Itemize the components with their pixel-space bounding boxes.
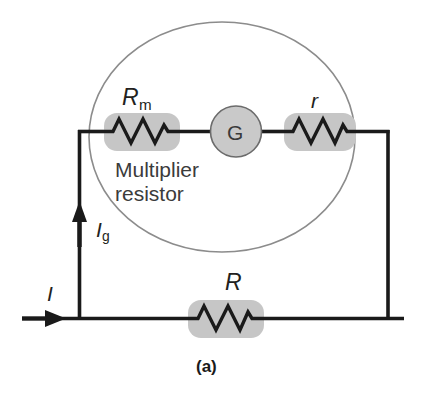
multiplier-resistor-caption: Multiplierresistor [115, 158, 245, 207]
galvanometer-label: G [227, 122, 243, 143]
multiplier-resistor-label-main: R [122, 84, 139, 110]
multiplier-resistor-caption-line2: resistor [115, 182, 184, 205]
figure-caption: (a) [196, 358, 217, 375]
galvanometer-current-label-main: I [96, 218, 102, 241]
internal-resistance-label: r [311, 90, 318, 111]
line-current-arrow [22, 310, 66, 327]
galvanometer-current-label: Ig [96, 219, 110, 240]
multiplier-resistor-caption-line1: Multiplier [115, 158, 199, 181]
multiplier-resistor-label-subscript: m [139, 96, 152, 113]
galvanometer-current-label-subscript: g [102, 228, 110, 244]
circuit-figure: Rm r G Multiplierresistor Ig I R (a) [0, 0, 424, 399]
internal-resistance-body [284, 113, 356, 151]
multiplier-resistor-label: Rm [122, 86, 151, 109]
galvanometer-current-arrow [72, 201, 87, 247]
external-resistor-label: R [225, 271, 242, 294]
line-current-label: I [47, 283, 53, 304]
